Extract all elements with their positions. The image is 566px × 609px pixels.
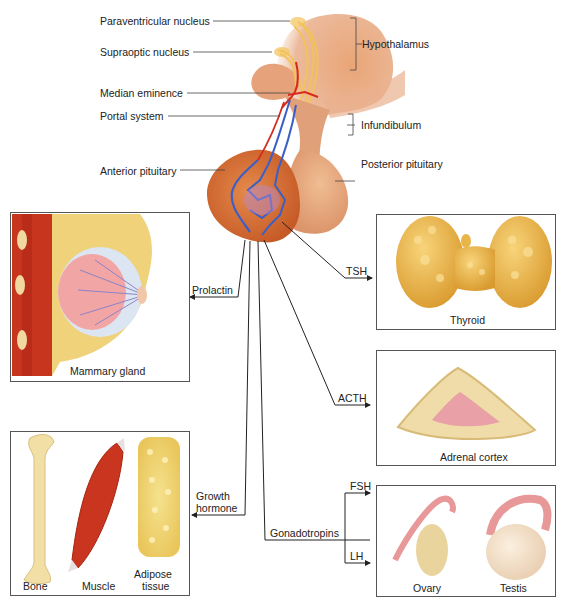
label-mammary-gland: Mammary gland	[70, 365, 145, 377]
label-prolactin: Prolactin	[192, 284, 233, 296]
label-muscle: Muscle	[82, 580, 115, 592]
gonads-box	[376, 485, 556, 597]
label-median-eminence: Median eminence	[100, 87, 183, 99]
label-anterior-pituitary: Anterior pituitary	[100, 165, 176, 177]
label-tsh: TSH	[346, 265, 367, 277]
label-paraventricular-nucleus: Paraventricular nucleus	[100, 15, 210, 27]
label-portal-system: Portal system	[100, 110, 164, 122]
label-supraoptic-nucleus: Supraoptic nucleus	[100, 46, 189, 58]
anterior-pituitary-hormone-diagram: Paraventricular nucleus Supraoptic nucle…	[0, 0, 566, 609]
label-ovary: Ovary	[413, 582, 441, 594]
label-bone: Bone	[23, 580, 48, 592]
growth-hormone-pathway	[192, 241, 250, 515]
label-hypothalamus: Hypothalamus	[362, 38, 429, 50]
label-adipose-line2: tissue	[142, 580, 169, 592]
mammary-gland-box	[10, 212, 190, 382]
label-growth-hormone-line1: Growth	[196, 490, 230, 502]
gonadotropins-pathway	[258, 241, 370, 540]
label-gonadotropins: Gonadotropins	[270, 527, 339, 539]
label-infundibulum: Infundibulum	[361, 119, 421, 131]
label-growth-hormone-line2: hormone	[196, 502, 237, 514]
label-posterior-pituitary: Posterior pituitary	[361, 158, 443, 170]
thyroid-box	[376, 214, 556, 330]
label-thyroid: Thyroid	[450, 314, 485, 326]
label-adrenal-cortex: Adrenal cortex	[440, 451, 508, 463]
label-acth: ACTH	[338, 392, 367, 404]
label-testis: Testis	[500, 582, 527, 594]
label-fsh: FSH	[350, 480, 371, 492]
label-adipose-line1: Adipose	[134, 568, 172, 580]
adrenal-cortex-box	[376, 350, 556, 466]
label-lh: LH	[350, 550, 363, 562]
